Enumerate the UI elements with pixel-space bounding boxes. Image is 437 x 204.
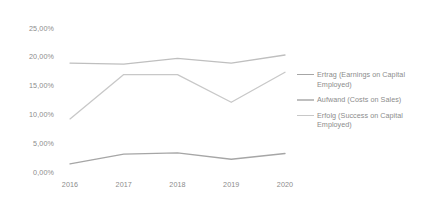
legend-item-label: Erfolg (Success on Capital Employed)	[317, 111, 435, 130]
legend-line-icon	[297, 74, 314, 75]
x-axis-tick-labels: 20162017201820192020	[0, 0, 300, 204]
plot-area: 0,00%5,00%10,00%15,00%20,00%25,00% 20162…	[0, 0, 300, 204]
line-chart: 0,00%5,00%10,00%15,00%20,00%25,00% 20162…	[0, 0, 437, 204]
legend-item[interactable]: Aufwand (Costs on Sales)	[297, 95, 437, 105]
x-axis-tick-label: 2020	[277, 181, 293, 188]
chart-legend: Ertrag (Earnings on Capital Employed)Auf…	[297, 70, 437, 136]
x-axis-tick-label: 2017	[116, 181, 132, 188]
legend-item-label: Aufwand (Costs on Sales)	[317, 95, 401, 105]
legend-item[interactable]: Ertrag (Earnings on Capital Employed)	[297, 70, 437, 89]
legend-item-label: Ertrag (Earnings on Capital Employed)	[317, 70, 435, 89]
legend-line-icon	[297, 99, 314, 100]
x-axis-tick-label: 2019	[223, 181, 239, 188]
legend-item[interactable]: Erfolg (Success on Capital Employed)	[297, 111, 437, 130]
x-axis-tick-label: 2018	[169, 181, 185, 188]
x-axis-tick-label: 2016	[62, 181, 78, 188]
legend-line-icon	[297, 115, 314, 116]
